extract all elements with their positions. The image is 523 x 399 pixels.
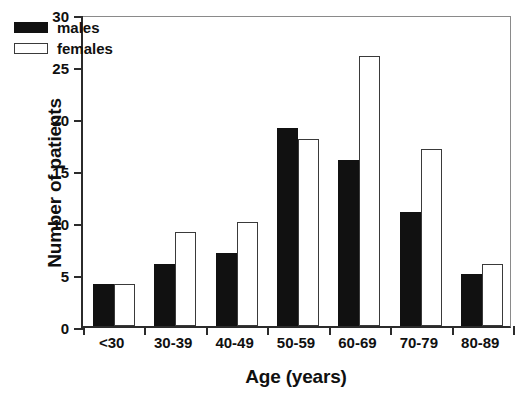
bar-females-50-59: [298, 139, 319, 326]
bar-females-<30: [114, 284, 135, 326]
y-axis-tick: [74, 68, 83, 70]
bar-males-80-89: [461, 274, 482, 326]
y-axis-tick-label: 15: [0, 164, 69, 181]
plot-area: [81, 16, 511, 328]
legend-swatch-females-icon: [14, 43, 48, 54]
y-axis-tick: [74, 328, 83, 330]
bar-males-70-79: [400, 212, 421, 326]
chart-figure: Number of patients Age (years) males fem…: [0, 0, 523, 399]
x-axis-title: Age (years): [81, 366, 511, 388]
bar-females-60-69: [359, 56, 380, 326]
y-axis-tick-label: 0: [0, 320, 69, 337]
y-axis-tick: [74, 276, 83, 278]
bar-males-40-49: [216, 253, 237, 326]
bar-males-60-69: [338, 160, 359, 326]
y-axis-tick-label: 20: [0, 112, 69, 129]
bar-males-50-59: [277, 128, 298, 326]
y-axis-tick-label: 5: [0, 268, 69, 285]
y-axis-tick-label: 10: [0, 216, 69, 233]
bar-females-70-79: [421, 149, 442, 326]
bar-males-<30: [93, 284, 114, 326]
y-axis-tick: [74, 224, 83, 226]
bar-females-40-49: [237, 222, 258, 326]
y-axis-tick: [74, 172, 83, 174]
x-axis-tick-label: 80-89: [440, 334, 520, 351]
bar-females-80-89: [482, 264, 503, 326]
bar-males-30-39: [154, 264, 175, 326]
legend-item-females: females: [14, 39, 113, 58]
y-axis-tick-label: 25: [0, 60, 69, 77]
y-axis-tick: [74, 120, 83, 122]
y-axis-tick-label: 30: [0, 8, 69, 25]
legend-label-females: females: [57, 40, 113, 57]
y-axis-title: Number of patients: [44, 33, 66, 333]
bar-females-30-39: [175, 232, 196, 326]
